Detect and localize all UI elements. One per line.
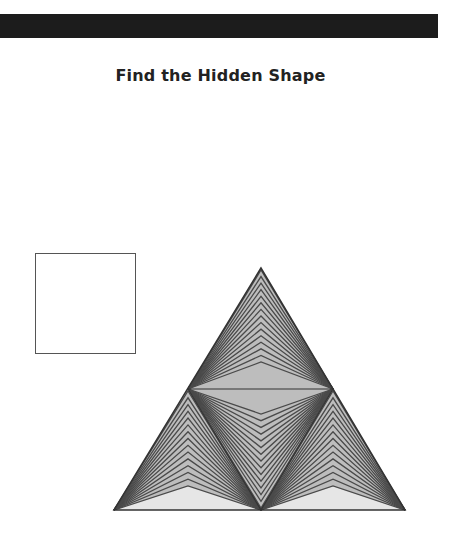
hidden-shape-triangle-puzzle[interactable] bbox=[0, 0, 454, 547]
top-subtriangle[interactable] bbox=[188, 268, 333, 389]
